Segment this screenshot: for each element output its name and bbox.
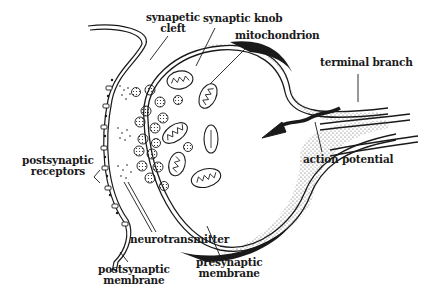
label-mitochondrion: mitochondrion bbox=[235, 30, 320, 41]
synapse-diagram: synapetic cleft synaptic knob mitochondr… bbox=[0, 0, 423, 302]
label-synaptic-knob: synaptic knob bbox=[203, 13, 282, 24]
label-action-potential: action potential bbox=[303, 154, 393, 165]
label-synaptic-cleft: synapetic cleft bbox=[146, 12, 200, 34]
neurotransmitter-dots bbox=[117, 85, 132, 179]
synaptic-vesicles bbox=[132, 85, 193, 191]
label-postsynaptic-membrane-line2: membrane bbox=[98, 275, 170, 286]
label-synaptic-cleft-line2: cleft bbox=[146, 23, 200, 34]
label-postsynaptic-receptors-line2: receptors bbox=[22, 166, 94, 177]
label-postsynaptic-receptors: postsynaptic receptors bbox=[22, 155, 94, 177]
label-presynaptic-membrane-line2: membrane bbox=[196, 268, 262, 279]
label-terminal-branch: terminal branch bbox=[320, 57, 413, 68]
label-presynaptic-membrane: presynaptic membrane bbox=[196, 257, 262, 279]
label-postsynaptic-membrane: postsynaptic membrane bbox=[98, 264, 170, 286]
label-neurotransmitter: neurotransmitter bbox=[130, 234, 229, 245]
mitochondria bbox=[159, 69, 223, 191]
